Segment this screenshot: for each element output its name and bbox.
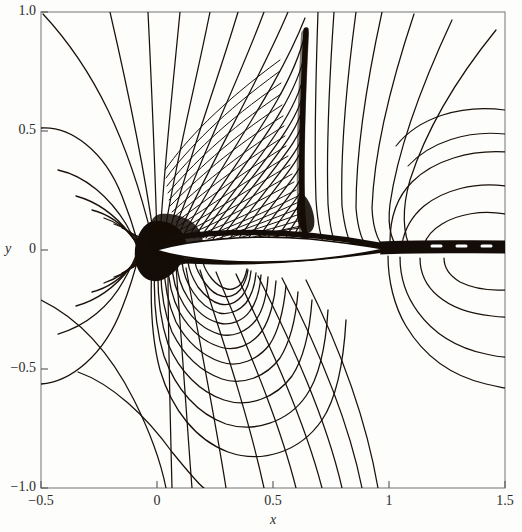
x-tick-label-0: 0 [137, 493, 177, 509]
x-tick-label-neg0_5: −0.5 [21, 493, 61, 509]
x-tick-label-1_5: 1.5 [485, 493, 522, 509]
y-tick-label-0_5: 0.5 [2, 122, 36, 138]
y-tick-label-neg0_5: −0.5 [2, 360, 36, 376]
x-tick-label-1: 1 [369, 493, 409, 509]
x-tick-label-0_5: 0.5 [253, 493, 293, 509]
y-tick-label-1: 1.0 [2, 3, 36, 19]
x-axis-title: x [253, 512, 293, 528]
contour-plot-canvas [0, 0, 522, 532]
contour-figure: 1.0 0.5 0 −0.5 −1.0 −0.5 0 0.5 1 1.5 y x [0, 0, 522, 532]
y-axis-title: y [5, 241, 11, 257]
